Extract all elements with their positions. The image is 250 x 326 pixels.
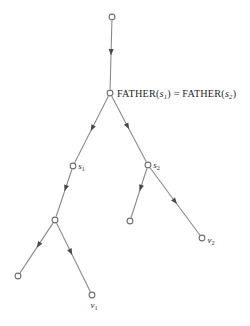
edge-left-node-to-v1-arrowhead (67, 248, 72, 255)
father-left-prefix: FATHER( (117, 88, 160, 100)
edge-s2-to-v2-arrowhead (171, 197, 177, 204)
edge-s2-to-left-leaf (131, 169, 147, 218)
father-right-prefix: FATHER( (182, 88, 225, 100)
father-equals-sign: = (171, 88, 182, 99)
bottom-left-leaf-node (15, 273, 21, 279)
edge-s1-to-left-node (56, 170, 72, 217)
root-node (109, 14, 115, 20)
edges-group (20, 21, 200, 292)
edge-root-to-father-arrowhead (109, 49, 114, 55)
v2-label: v2 (208, 235, 215, 246)
node-labels-group: FATHER(s1) = FATHER(s2)s1s2v1v2 (78, 88, 236, 311)
edge-father-to-s1-arrowhead (91, 124, 96, 131)
edge-s2-to-left-leaf-arrowhead (139, 184, 144, 191)
s2-label: s2 (153, 160, 160, 171)
tree-diagram-figure: FATHER(s1) = FATHER(s2)s1s2v1v2 (0, 0, 250, 326)
s2-node (145, 162, 151, 168)
father-right-close: ) (233, 88, 237, 100)
s1-node (70, 163, 76, 169)
v1-label: v1 (91, 300, 98, 311)
edge-s1-to-left-node-arrowhead (64, 184, 69, 191)
s2-left-leaf-node (127, 218, 133, 224)
v1-label-subscript: 1 (95, 304, 98, 311)
edge-left-node-to-bl (20, 223, 53, 273)
father-equation-label: FATHER(s1) = FATHER(s2) (117, 88, 236, 100)
s2-label-subscript: 2 (157, 164, 160, 171)
father-node (107, 90, 113, 96)
nodes-group (15, 14, 205, 298)
edge-left-node-to-bl-arrowhead (37, 241, 43, 248)
v2-label-subscript: 2 (212, 239, 215, 246)
s1-label: s1 (78, 161, 85, 172)
tree-diagram-canvas: FATHER(s1) = FATHER(s2)s1s2v1v2 (0, 0, 250, 326)
arrowheads-group (37, 49, 177, 255)
edge-left-node-to-v1 (57, 223, 91, 291)
edge-father-to-s2-arrowhead (124, 122, 129, 129)
s1-label-subscript: 1 (82, 165, 85, 172)
v2-leaf-node (199, 235, 205, 241)
v1-leaf-node (89, 292, 95, 298)
left-branch-node (52, 217, 58, 223)
